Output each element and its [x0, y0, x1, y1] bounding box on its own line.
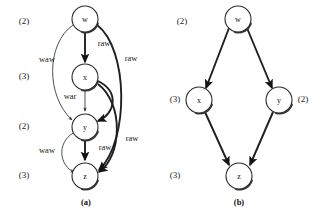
node-y-label: y [83, 123, 87, 132]
caption-b: (b) [234, 197, 245, 207]
edge-w-y-waw [53, 25, 73, 120]
node-x-label: x [83, 73, 87, 82]
edge-label-y-z-waw: waw [39, 145, 56, 155]
panel-a-latency-labels: (2) (3) (2) (3) [19, 16, 30, 180]
panel-b-edges [205, 28, 273, 165]
edge-b-w-x [206, 28, 229, 88]
panel-b-nodes: w x y z [186, 6, 292, 189]
caption-a: (a) [81, 197, 91, 207]
node-w-label: w [82, 15, 88, 24]
edge-label-x-y-war: war [64, 91, 77, 101]
node-y[interactable]: y [72, 114, 98, 140]
node-w[interactable]: w [72, 6, 98, 32]
edge-b-x-z [205, 112, 229, 165]
latency-label-b-x: (3) [170, 94, 181, 104]
node-b-z[interactable]: z [226, 163, 252, 189]
node-b-z-label: z [237, 172, 241, 181]
panel-b: w x y z (2) [170, 6, 309, 189]
latency-label-y: (2) [19, 121, 30, 131]
node-b-y-label: y [277, 96, 281, 105]
edge-b-y-z [250, 112, 273, 165]
latency-label-b-w: (2) [177, 16, 188, 26]
node-z-label: z [83, 172, 87, 181]
figure-canvas: w x y z raw [0, 0, 328, 219]
node-b-y[interactable]: y [266, 87, 292, 113]
node-b-w-label: w [235, 15, 241, 24]
edge-label-w-z-raw: raw [125, 53, 139, 63]
edge-label-y-z-raw: raw [99, 142, 113, 152]
node-z[interactable]: z [72, 163, 98, 189]
figure-captions: (a) (b) [81, 197, 244, 207]
dependency-graph-figure: w x y z raw [0, 0, 328, 219]
latency-label-b-z: (3) [170, 170, 181, 180]
node-b-x-label: x [197, 96, 201, 105]
latency-label-z: (3) [19, 170, 30, 180]
edge-label-x-z-raw: raw [126, 133, 140, 143]
panel-a: w x y z raw [19, 6, 139, 189]
edge-b-w-y [247, 28, 272, 88]
node-x[interactable]: x [72, 64, 98, 90]
latency-label-b-y: (2) [298, 94, 309, 104]
edge-y-z-waw [62, 133, 74, 172]
node-b-w[interactable]: w [225, 6, 251, 32]
latency-label-w: (2) [19, 16, 30, 26]
node-b-x[interactable]: x [186, 87, 212, 113]
edge-label-w-y-waw: waw [39, 54, 56, 64]
edge-label-w-x-raw: raw [98, 38, 112, 48]
latency-label-x: (3) [19, 71, 30, 81]
